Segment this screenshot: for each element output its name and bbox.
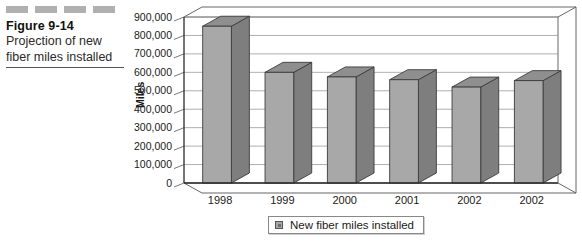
bar-column: [452, 77, 499, 183]
y-axis-tick-label: 600,000: [134, 66, 172, 78]
figure-number: Figure 9-14: [6, 19, 130, 33]
decor-dash-icon: [64, 6, 86, 13]
x-axis-tick-label: 2001: [395, 194, 419, 206]
y-axis-tick-label: 700,000: [134, 47, 172, 59]
decor-dash-icon: [6, 6, 28, 13]
x-axis-tick-label: 2000: [332, 194, 356, 206]
figure-caption: Figure 9-14 Projection of new fiber mile…: [4, 6, 130, 68]
decor-dash-icon: [93, 6, 115, 13]
bar-column: [265, 62, 312, 183]
y-axis-tick-label: 800,000: [134, 29, 172, 41]
bar-column: [390, 70, 437, 183]
y-axis-tick-label: 300,000: [134, 121, 172, 133]
y-axis-tick-label: 0: [166, 177, 172, 189]
y-axis-tick-label: 900,000: [134, 11, 172, 23]
bar-column: [514, 71, 561, 183]
decor-dash-icon: [35, 6, 57, 13]
x-axis-tick-label: 1999: [270, 194, 294, 206]
figure-description-line-1: Projection of new: [6, 34, 130, 49]
y-axis-tick-marks: [174, 17, 184, 187]
bar-column: [327, 67, 374, 183]
bar-chart-plot: 0100,000200,000300,000400,000500,000600,…: [118, 0, 582, 212]
y-axis-tick-labels: 0100,000200,000300,000400,000500,000600,…: [134, 11, 172, 189]
x-axis-tick-label: 1998: [208, 194, 232, 206]
y-axis-tick-label: 100,000: [134, 158, 172, 170]
bar-column: [203, 16, 250, 183]
y-axis-tick-label: 400,000: [134, 103, 172, 115]
figure-description-line-2: fiber miles installed: [6, 50, 130, 65]
series-swatch-icon: [275, 221, 283, 229]
legend-entry-label: New fiber miles installed: [290, 219, 414, 231]
figure-container: Figure 9-14 Projection of new fiber mile…: [0, 0, 582, 244]
caption-divider: [6, 67, 124, 68]
x-axis-tick-labels: 199819992000200120022002: [208, 194, 544, 206]
x-axis-tick-label: 2002: [457, 194, 481, 206]
chart-region: Miles 0100,000200,000300,000400,000500,0…: [118, 0, 582, 244]
y-axis-tick-label: 200,000: [134, 140, 172, 152]
chart-legend: New fiber miles installed: [268, 216, 424, 234]
x-axis-tick-label: 2002: [519, 194, 543, 206]
y-axis-tick-label: 500,000: [134, 84, 172, 96]
decorative-dash-row: [6, 6, 130, 13]
